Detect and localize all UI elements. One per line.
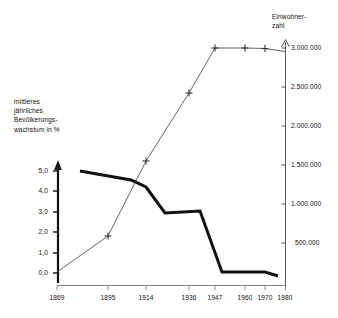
x-axis-tick-1947: 1947 — [200, 294, 230, 301]
series-einwohnerzahl-markers — [105, 45, 269, 240]
left-axis-title-line-3: Bevölkerungs- — [14, 116, 57, 123]
x-axis-tick-1914: 1914 — [131, 294, 161, 301]
left-axis-title-line-1: mittleres — [14, 98, 40, 105]
right-axis — [282, 40, 290, 287]
right-axis-tick-0: 500.000 — [295, 239, 320, 246]
right-axis-tick-5: 3.000.000 — [291, 44, 321, 51]
chart-plot-area — [0, 0, 338, 318]
x-axis-tick-1869: 1869 — [42, 294, 72, 301]
left-axis — [53, 160, 62, 283]
left-axis-tick-5: 5,0 — [26, 167, 48, 174]
left-axis-title: mittleres jährliches Bevölkerungs- wachs… — [14, 97, 60, 134]
right-axis-title-line-1: Einwohner- — [272, 13, 306, 20]
x-axis-tick-1895: 1895 — [93, 294, 123, 301]
population-growth-chart: mittleres jährliches Bevölkerungs- wachs… — [0, 0, 338, 318]
left-axis-title-line-2: jährliches — [14, 107, 43, 114]
left-axis-tick-2: 2,0 — [26, 228, 48, 235]
right-axis-tick-2: 1.500.000 — [291, 161, 321, 168]
left-axis-tick-4: 4,0 — [26, 187, 48, 194]
series-bevoelkerungswachstum — [80, 171, 278, 276]
x-axis-tick-1980: 1980 — [270, 294, 300, 301]
right-axis-tick-3: 2.000.000 — [291, 122, 321, 129]
left-axis-tick-0: 0,0 — [26, 269, 48, 276]
left-axis-title-line-4: wachstum in % — [14, 126, 60, 133]
right-axis-title-line-2: zahl — [272, 22, 285, 29]
x-axis — [57, 286, 286, 291]
right-axis-tick-1: 1.000.000 — [291, 200, 321, 207]
left-axis-tick-3: 3,0 — [26, 208, 48, 215]
series-einwohnerzahl — [57, 45, 285, 273]
right-axis-title: Einwohner- zahl — [272, 12, 306, 30]
left-axis-tick-1: 1,0 — [26, 249, 48, 256]
right-axis-tick-4: 2.500.000 — [291, 83, 321, 90]
